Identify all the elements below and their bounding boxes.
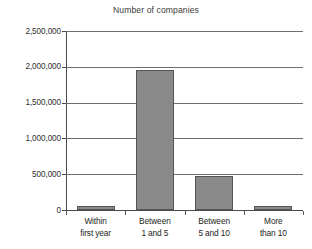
- bar[interactable]: [136, 70, 174, 210]
- x-axis-label-line: 5 and 10: [185, 228, 244, 240]
- y-axis-tick-label: 2,000,000: [3, 62, 61, 71]
- x-axis-category-label: Morethan 10: [244, 216, 303, 239]
- y-axis-tick-label: 1,500,000: [3, 98, 61, 107]
- x-axis-tick-mark: [66, 211, 67, 215]
- bar[interactable]: [254, 206, 292, 210]
- x-axis-label-line: Between: [185, 216, 244, 228]
- bar[interactable]: [195, 176, 233, 210]
- y-axis-tick-label: 2,500,000: [3, 27, 61, 36]
- bar-slot: [244, 31, 303, 210]
- plot-area: [66, 31, 303, 210]
- x-axis-tick-mark: [303, 211, 304, 215]
- x-axis-label-line: Between: [125, 216, 184, 228]
- bar-slot: [66, 31, 125, 210]
- bar-slot: [185, 31, 244, 210]
- bar[interactable]: [77, 206, 115, 210]
- y-axis-tick-label: 1,000,000: [3, 134, 61, 143]
- x-axis-category-label: Between5 and 10: [185, 216, 244, 239]
- chart-title: Number of companies: [0, 5, 312, 16]
- x-axis-tick-mark: [244, 211, 245, 215]
- x-axis-category-label: Withinfirst year: [66, 216, 125, 239]
- x-axis-label-line: More: [244, 216, 303, 228]
- x-axis-label-line: than 10: [244, 228, 303, 240]
- x-axis-tick-mark: [185, 211, 186, 215]
- x-axis-category-label: Between1 and 5: [125, 216, 184, 239]
- x-axis-label-line: first year: [66, 228, 125, 240]
- x-axis-tick-mark: [125, 211, 126, 215]
- x-axis-label-line: Within: [66, 216, 125, 228]
- bar-slot: [125, 31, 184, 210]
- y-axis-tick-label: 500,000: [3, 170, 61, 179]
- bar-chart: Number of companies 2,500,0002,000,0001,…: [0, 0, 312, 249]
- x-axis-label-line: 1 and 5: [125, 228, 184, 240]
- y-axis-tick-label: 0: [3, 206, 61, 215]
